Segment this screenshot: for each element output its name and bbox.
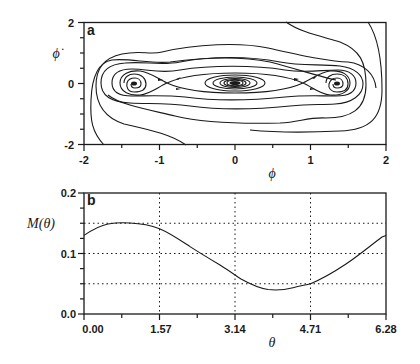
x-axis-title-b: θ <box>269 335 276 350</box>
y-axis-title-b: M(θ) <box>26 216 55 232</box>
y-ticks-b <box>78 193 84 314</box>
x-tick-label: 0 <box>232 154 238 166</box>
panel-b-line-chart: b 0.2 0.1 0.0 0.00 1.57 3.14 4.71 6.28 θ… <box>26 187 397 350</box>
x-tick-label: 6.28 <box>375 323 396 335</box>
y-tick-label: 0.0 <box>61 308 76 320</box>
x-tick-label: 1.57 <box>150 323 171 335</box>
phase-orbits <box>91 22 382 145</box>
y-tick-label: -2 <box>64 139 74 151</box>
panel-label-b: b <box>87 192 96 208</box>
x-ticks-a <box>84 145 386 152</box>
y-tick-label: 0 <box>68 78 74 90</box>
x-tick-label: 3.14 <box>224 323 246 335</box>
y-axis-title-a: ϕ̇ <box>52 46 63 61</box>
y-tick-label: 0.1 <box>61 248 76 260</box>
x-tick-label: 4.71 <box>300 323 321 335</box>
figure: a 2 0 -2 -2 -1 0 1 2 ϕ ϕ̇ <box>0 0 420 364</box>
x-tick-label: 2 <box>383 154 389 166</box>
y-tick-label: 0.2 <box>61 187 76 199</box>
x-ticks-b <box>84 314 386 320</box>
x-tick-label: 0.00 <box>82 323 103 335</box>
panel-a-phase-portrait: a 2 0 -2 -2 -1 0 1 2 ϕ ϕ̇ <box>52 17 389 181</box>
x-tick-label: 1 <box>307 154 313 166</box>
y-ticks-a <box>78 23 84 145</box>
panel-label-a: a <box>87 22 95 38</box>
grid-b <box>84 193 386 314</box>
y-tick-label: 2 <box>68 17 74 29</box>
x-tick-label: -1 <box>155 154 165 166</box>
x-axis-title-a: ϕ <box>268 166 275 181</box>
x-tick-label: -2 <box>79 154 89 166</box>
